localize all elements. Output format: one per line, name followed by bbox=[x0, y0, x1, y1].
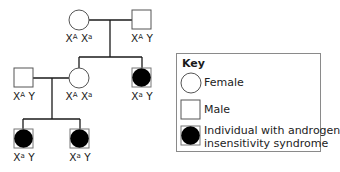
gen1-male-symbol bbox=[132, 10, 151, 29]
affected-filled-icon bbox=[180, 125, 202, 147]
gen2-female-symbol bbox=[69, 68, 89, 88]
legend-key: Key Female Male Individual with androgen… bbox=[176, 53, 321, 152]
female-circle-icon bbox=[180, 72, 202, 94]
male-square-icon bbox=[180, 99, 202, 121]
gen2-male-affected-fill bbox=[132, 68, 151, 87]
genotype-label-gen2-male: XA Y bbox=[13, 90, 35, 102]
key-label-affected-line2: insensitivity syndrome bbox=[204, 137, 328, 150]
gen1-female-symbol bbox=[69, 10, 89, 30]
genotype-label-gen1-female: XA Xa bbox=[66, 32, 93, 44]
genotype-label-gen2-affected-male: Xa Y bbox=[131, 90, 152, 102]
genotype-label-gen3-male-2: Xa Y bbox=[69, 151, 90, 163]
affected-fill bbox=[14, 129, 33, 148]
affected-fill bbox=[70, 129, 89, 148]
genotype-label-gen3-male-1: Xa Y bbox=[13, 151, 34, 163]
key-label-male: Male bbox=[204, 103, 230, 116]
key-title: Key bbox=[182, 57, 205, 70]
genotype-label-gen1-male: XA Y bbox=[131, 32, 153, 44]
key-label-affected-line1: Individual with androgen bbox=[204, 124, 340, 137]
genotype-label-gen2-female: XA Xa bbox=[66, 90, 93, 102]
gen2-male-unaffected-symbol bbox=[14, 68, 33, 87]
key-label-female: Female bbox=[204, 76, 244, 89]
